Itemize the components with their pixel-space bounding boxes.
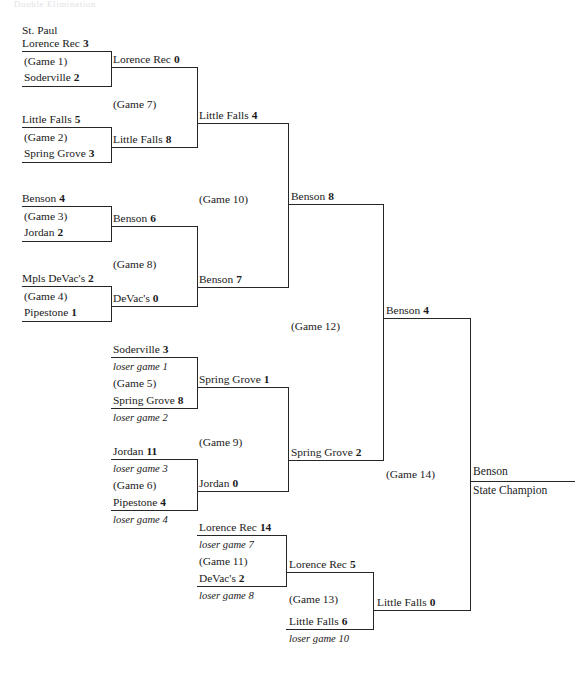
losers-game5-bottom-note: loser game 2	[113, 411, 168, 424]
bracket-connector	[373, 572, 374, 630]
team-score: 8	[166, 133, 172, 145]
team-score: 2	[74, 71, 80, 83]
losers-game11-label: (Game 11)	[199, 555, 248, 568]
round1-game2-bottom-team: Spring Grove3	[24, 147, 94, 160]
team-name: Little Falls	[377, 596, 427, 608]
round1-game4-bottom-team: Pipestone1	[24, 306, 77, 319]
losers-game5-top-note: loser game 1	[113, 360, 168, 373]
team-score: 3	[89, 147, 95, 159]
bracket-connector	[197, 357, 198, 409]
team-score: 11	[146, 445, 157, 457]
bracket-rule	[111, 306, 198, 307]
team-score: 4	[252, 109, 258, 121]
team-score: 14	[260, 521, 271, 533]
bracket-page: Double Elimination St. Paul Lorence Rec3…	[0, 0, 580, 673]
bracket-connector	[197, 67, 198, 148]
team-name: Benson	[113, 212, 147, 224]
team-score: 4	[423, 304, 429, 316]
bracket-rule	[111, 357, 198, 358]
bracket-connector	[286, 535, 287, 587]
losers-game13-bottom-note: loser game 10	[289, 632, 349, 645]
bracket-rule	[197, 586, 287, 587]
bracket-connector	[197, 226, 198, 307]
team-name: Jordan	[199, 477, 229, 489]
team-name: Spring Grove	[291, 446, 353, 458]
team-name: Little Falls	[289, 615, 339, 627]
team-name: Lorence Rec	[113, 53, 171, 65]
losers-game6-bottom-team: Pipestone4	[113, 496, 166, 509]
bracket-rule	[22, 321, 112, 322]
team-name: Little Falls	[199, 109, 249, 121]
team-score: 4	[59, 192, 65, 204]
bracket-rule	[22, 86, 112, 87]
team-name: Benson	[22, 192, 56, 204]
bracket-rule	[111, 408, 198, 409]
losers-game9-top-team: Spring Grove1	[199, 373, 269, 386]
bracket-rule	[197, 535, 287, 536]
bracket-rule	[286, 572, 374, 573]
round4-game12-bottom-team: Spring Grove2	[291, 446, 361, 459]
bracket-rule	[111, 147, 198, 148]
losers-game13-label: (Game 13)	[289, 593, 338, 606]
bracket-rule	[22, 127, 112, 128]
team-score: 5	[75, 113, 81, 125]
team-name: Soderville	[113, 343, 160, 355]
round1-game1-top-team: Lorence Rec3	[22, 37, 89, 50]
team-score: 2	[356, 446, 362, 458]
team-name: Lorence Rec	[22, 37, 80, 49]
bracket-rule	[22, 162, 112, 163]
champion-title: State Champion	[473, 484, 547, 498]
losers-game11-bottom-note: loser game 8	[199, 589, 254, 602]
team-name: DeVac's	[113, 292, 150, 304]
team-score: 4	[160, 496, 166, 508]
team-name: Mpls DeVac's	[22, 272, 85, 284]
team-score: 1	[264, 373, 270, 385]
round4-game12-top-team: Benson8	[291, 190, 334, 203]
round2-game7-label: (Game 7)	[113, 98, 156, 111]
team-name: Spring Grove	[113, 394, 175, 406]
round2-game7-bottom-team: Little Falls8	[113, 133, 171, 146]
team-name: Jordan	[113, 445, 143, 457]
bracket-rule	[286, 629, 374, 630]
team-score: 2	[57, 226, 63, 238]
round3-game10-top-team: Little Falls4	[199, 109, 257, 122]
bracket-rule	[22, 51, 112, 52]
page-title: Double Elimination	[14, 0, 96, 9]
losers-game5-top-team: Soderville3	[113, 343, 169, 356]
team-score: 7	[236, 273, 242, 285]
bracket-rule	[197, 123, 289, 124]
team-score: 6	[150, 212, 156, 224]
bracket-rule	[111, 226, 198, 227]
bracket-rule	[22, 286, 112, 287]
team-score: 3	[83, 37, 89, 49]
round1-game3-label: (Game 3)	[24, 210, 67, 223]
bracket-rule	[111, 459, 198, 460]
losers-game6-label: (Game 6)	[113, 479, 156, 492]
team-score: 5	[350, 558, 356, 570]
round1-game4-label: (Game 4)	[24, 290, 67, 303]
losers-game13-top-team: Lorence Rec5	[289, 558, 356, 571]
round1-game1-city: St. Paul	[22, 24, 57, 37]
team-score: 6	[342, 615, 348, 627]
team-name: Pipestone	[24, 306, 68, 318]
bracket-connector	[288, 387, 289, 492]
bracket-connector	[111, 51, 112, 87]
final-game14-bottom-team: Little Falls0	[377, 596, 435, 609]
team-name: Lorence Rec	[199, 521, 257, 533]
losers-game6-top-note: loser game 3	[113, 462, 168, 475]
bracket-connector	[470, 318, 471, 611]
losers-game11-top-team: Lorence Rec14	[199, 521, 271, 534]
bracket-rule	[22, 206, 112, 207]
round2-game7-top-team: Lorence Rec0	[113, 53, 180, 66]
bracket-rule	[288, 460, 384, 461]
round2-game8-top-team: Benson6	[113, 212, 156, 225]
team-score: 0	[153, 292, 159, 304]
bracket-rule	[197, 287, 289, 288]
team-name: Pipestone	[113, 496, 157, 508]
losers-game6-top-team: Jordan11	[113, 445, 157, 458]
team-name: Little Falls	[22, 113, 72, 125]
champion-rule	[470, 481, 575, 482]
team-score: 0	[232, 477, 238, 489]
bracket-connector	[197, 459, 198, 511]
team-name: Benson	[291, 190, 325, 202]
